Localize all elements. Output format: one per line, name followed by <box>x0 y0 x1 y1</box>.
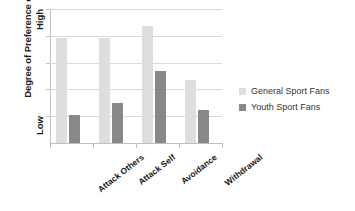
x-axis-tick-mark <box>93 143 94 148</box>
y-axis-tick-mark <box>46 9 50 10</box>
y-axis-tick-mark <box>46 89 50 90</box>
bar-group <box>93 9 136 143</box>
bar <box>69 115 80 143</box>
bar <box>99 38 110 143</box>
chart-legend: General Sport FansYouth Sport Fans <box>239 86 351 118</box>
y-axis-tick-mark <box>46 36 50 37</box>
bar-group <box>136 9 179 143</box>
bar <box>56 38 67 143</box>
x-axis-tick-mark <box>179 143 180 148</box>
bar <box>198 110 209 143</box>
bar <box>185 80 196 143</box>
y-axis-title: Degree of Preference of Use <box>22 0 33 111</box>
x-axis-tick-mark <box>50 143 51 148</box>
y-axis-tick-mark <box>46 63 50 64</box>
bar <box>142 26 153 143</box>
legend-swatch-icon <box>239 88 246 95</box>
plot-area <box>50 9 222 143</box>
x-axis-tick-mark <box>136 143 137 148</box>
bar-group <box>179 9 222 143</box>
x-axis-category-label: Attack Others <box>95 152 145 194</box>
bar <box>112 103 123 143</box>
legend-label: Youth Sport Fans <box>251 102 320 113</box>
x-axis-category-label: Withdrawal <box>222 152 264 188</box>
legend-item: Youth Sport Fans <box>239 102 351 113</box>
x-axis-tick-mark <box>222 143 223 148</box>
bar-chart: Degree of Preference of Use High Low Att… <box>0 0 355 211</box>
y-axis-tick-mark <box>46 116 50 117</box>
y-tick-label-low: Low <box>34 109 45 143</box>
legend-item: General Sport Fans <box>239 86 351 97</box>
x-axis-category-label: Avoidance <box>179 152 219 186</box>
legend-label: General Sport Fans <box>251 86 330 97</box>
bar-group <box>50 9 93 143</box>
y-tick-label-high: High <box>34 3 45 37</box>
bar <box>155 71 166 143</box>
legend-swatch-icon <box>239 104 246 111</box>
